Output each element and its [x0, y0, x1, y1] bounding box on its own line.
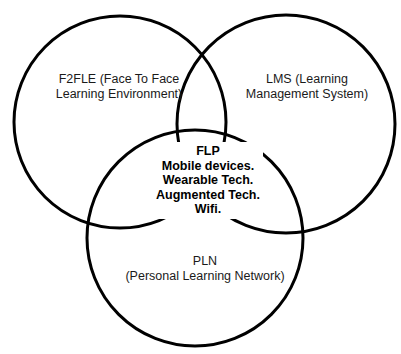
label-lms-line1: LMS (Learning [242, 72, 372, 87]
label-pln-line2: (Personal Learning Network) [120, 269, 290, 284]
label-lms-line2: Management System) [242, 87, 372, 102]
intersection-item: Augmented Tech. [156, 188, 260, 203]
intersection-item: Wifi. [156, 202, 260, 217]
label-pln: PLN (Personal Learning Network) [120, 254, 290, 284]
intersection-item: Mobile devices. [156, 159, 260, 174]
label-pln-line1: PLN [120, 254, 290, 269]
label-f2fle: F2FLE (Face To Face Learning Environment… [44, 72, 194, 102]
label-f2fle-line1: F2FLE (Face To Face [44, 72, 194, 87]
intersection-item: Wearable Tech. [156, 173, 260, 188]
label-lms: LMS (Learning Management System) [242, 72, 372, 102]
intersection-title: FLP [156, 144, 260, 159]
label-f2fle-line2: Learning Environment) [44, 87, 194, 102]
intersection-flp: FLP Mobile devices. Wearable Tech. Augme… [153, 142, 263, 219]
